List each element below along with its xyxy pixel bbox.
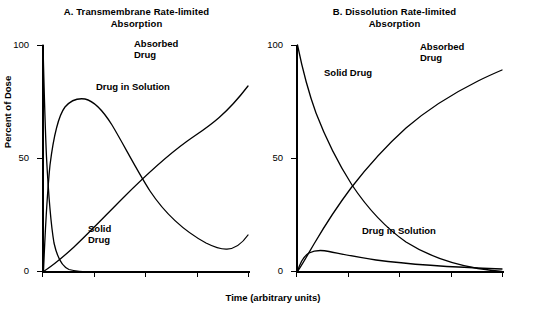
label-solid-drug-a-line2: Drug <box>88 234 111 245</box>
panel-a-curves <box>42 45 250 273</box>
y-tick-label-100-a: 100 <box>13 40 29 50</box>
curve-drug-in-solution-b <box>298 251 503 272</box>
panel-b: B. Dissolution Rate-limited Absorption 0… <box>258 0 531 318</box>
curve-drug-in-solution-a <box>44 99 249 271</box>
curve-absorbed-drug-b <box>298 70 503 272</box>
label-solid-drug-a: Solid Drug <box>88 223 111 245</box>
panel-a-plot-area: 0 50 100 0 1 2 3 4 <box>42 45 250 273</box>
panel-b-title: B. Dissolution Rate-limited Absorption <box>258 6 531 29</box>
y-tick-label-0-b: 0 <box>278 266 283 276</box>
y-tick-label-50-b: 50 <box>272 153 283 163</box>
curve-solid-drug-b <box>298 45 503 272</box>
panel-b-curves <box>296 45 504 273</box>
label-solid-drug-b: Solid Drug <box>324 67 372 78</box>
y-tick-label-0-a: 0 <box>24 266 29 276</box>
figure-container: A. Transmembrane Rate-limited Absorption… <box>0 0 546 318</box>
label-absorbed-drug-a-line1: Absorbed <box>134 38 178 49</box>
panel-a-title-line2: Absorption <box>0 18 273 30</box>
curve-solid-drug-a <box>43 45 248 272</box>
panel-a-title: A. Transmembrane Rate-limited Absorption <box>0 6 273 29</box>
curve-absorbed-drug-a <box>44 86 249 272</box>
label-absorbed-drug-b-line1: Absorbed <box>420 41 464 52</box>
label-absorbed-drug-a: Absorbed Drug <box>134 38 178 60</box>
label-drug-in-solution-b: Drug in Solution <box>362 225 436 236</box>
x-axis-title: Time (arbitrary units) <box>0 292 546 303</box>
y-tick-label-50-a: 50 <box>18 153 29 163</box>
y-tick-label-100-b: 100 <box>267 40 283 50</box>
y-axis-title-a: Percent of Dose <box>2 76 13 148</box>
label-solid-drug-a-line1: Solid <box>88 223 111 234</box>
panel-b-title-line1: B. Dissolution Rate-limited <box>333 6 457 17</box>
panel-a-title-line1: A. Transmembrane Rate-limited <box>64 6 209 17</box>
panel-b-plot-area: 0 50 100 0 1 2 3 4 <box>296 45 504 273</box>
label-absorbed-drug-b: Absorbed Drug <box>420 41 464 63</box>
label-drug-in-solution-a: Drug in Solution <box>96 81 170 92</box>
panel-b-title-line2: Absorption <box>258 18 531 30</box>
label-absorbed-drug-a-line2: Drug <box>134 49 178 60</box>
panel-a: A. Transmembrane Rate-limited Absorption… <box>0 0 273 318</box>
label-absorbed-drug-b-line2: Drug <box>420 52 464 63</box>
